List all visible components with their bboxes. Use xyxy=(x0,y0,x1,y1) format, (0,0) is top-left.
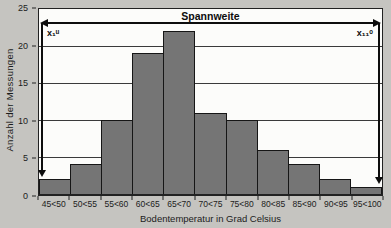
spannweite-arrow xyxy=(47,22,374,24)
x-tick-label: 45<50 xyxy=(38,199,69,211)
x-tick-label: 60<65 xyxy=(132,199,163,211)
lower-bound-label: x₁ᵘ xyxy=(47,28,59,38)
y-tick-label: 10 xyxy=(18,116,28,126)
histogram-bar xyxy=(70,164,102,194)
y-tick-label: 20 xyxy=(18,41,28,51)
x-axis-ticks: 45<5050<5555<6060<6565<7070<7575<8080<85… xyxy=(38,199,383,211)
x-tick-label: 90<95 xyxy=(320,199,351,211)
x-tick-label: 70<75 xyxy=(195,199,226,211)
histogram-bar xyxy=(288,164,320,194)
plot-area: Spannweite x₁ᵘ x₁₁ᵒ xyxy=(38,8,383,196)
histogram-bar xyxy=(39,179,71,194)
upper-bound-label: x₁₁ᵒ xyxy=(357,28,373,38)
histogram-bar xyxy=(226,120,258,194)
y-tick-label: 15 xyxy=(18,78,28,88)
x-tick-label: 80<85 xyxy=(258,199,289,211)
histogram-bar xyxy=(194,113,226,194)
x-tick-label: 85<90 xyxy=(289,199,320,211)
x-tick-label: 50<55 xyxy=(69,199,100,211)
x-tick-label: 55<60 xyxy=(101,199,132,211)
y-tick-label: 0 xyxy=(23,191,28,201)
left-range-arrow xyxy=(41,23,43,171)
histogram-bar xyxy=(350,187,382,194)
histogram-bar xyxy=(163,31,195,194)
x-axis-title: Bodentemperatur in Grad Celsius xyxy=(38,213,383,224)
spannweite-label: Spannweite xyxy=(39,10,382,22)
y-tick-label: 5 xyxy=(23,153,28,163)
right-range-arrow xyxy=(378,23,380,178)
bars xyxy=(39,9,382,194)
histogram-bar xyxy=(319,179,351,194)
histogram-bar xyxy=(257,150,289,194)
x-tick-label: 65<70 xyxy=(163,199,194,211)
x-tick-label: 95<100 xyxy=(352,199,383,211)
y-tick-label: 25 xyxy=(18,3,28,13)
histogram-chart: Anzahl der Messungen 0510152025 Spannwei… xyxy=(0,0,391,228)
histogram-bar xyxy=(101,120,133,194)
y-axis-ticks: 0510152025 xyxy=(0,8,36,196)
histogram-bar xyxy=(132,53,164,194)
x-tick-label: 75<80 xyxy=(226,199,257,211)
